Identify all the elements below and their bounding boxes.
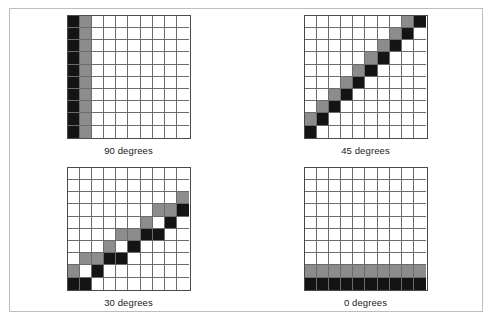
grid-cell bbox=[317, 65, 329, 77]
grid-cell bbox=[104, 241, 116, 253]
grid-cell bbox=[104, 40, 116, 52]
grid-cell bbox=[341, 229, 353, 241]
grid-cell bbox=[68, 217, 80, 229]
grid-cell bbox=[92, 180, 104, 192]
grid-cell bbox=[116, 217, 128, 229]
grid-cell bbox=[177, 278, 189, 290]
grid-cell bbox=[305, 28, 317, 40]
grid-cell bbox=[104, 126, 116, 138]
grid-cell bbox=[116, 265, 128, 277]
grid-cell bbox=[390, 113, 402, 125]
grid-cell bbox=[128, 113, 140, 125]
grid-cell bbox=[341, 204, 353, 216]
grid-cell bbox=[68, 168, 80, 180]
grid-cell bbox=[116, 278, 128, 290]
grid-cell bbox=[141, 265, 153, 277]
grid-cell bbox=[80, 28, 92, 40]
grid-cell bbox=[378, 52, 390, 64]
grid-cell bbox=[378, 77, 390, 89]
grid-cell bbox=[92, 229, 104, 241]
grid-cell bbox=[317, 168, 329, 180]
grid-cell bbox=[128, 52, 140, 64]
grid-cell bbox=[378, 217, 390, 229]
grid-cell bbox=[329, 253, 341, 265]
grid-cell bbox=[92, 241, 104, 253]
grid-cell bbox=[80, 52, 92, 64]
grid-cell bbox=[116, 168, 128, 180]
grid-cell bbox=[104, 204, 116, 216]
grid-cell bbox=[177, 52, 189, 64]
grid-cell bbox=[341, 126, 353, 138]
grid-cell bbox=[177, 126, 189, 138]
grid-cell bbox=[177, 101, 189, 113]
grid-cell bbox=[104, 77, 116, 89]
grid-cell bbox=[165, 192, 177, 204]
figure-frame: 90 degrees45 degrees30 degrees0 degrees bbox=[9, 8, 483, 312]
grid-cell bbox=[177, 229, 189, 241]
grid-cell bbox=[128, 89, 140, 101]
grid-cell bbox=[305, 89, 317, 101]
grid-cell bbox=[165, 16, 177, 28]
grid-cell bbox=[141, 180, 153, 192]
grid-cell bbox=[390, 28, 402, 40]
grid-cell bbox=[341, 253, 353, 265]
grid-cell bbox=[378, 65, 390, 77]
grid-cell bbox=[402, 77, 414, 89]
grid-cell bbox=[305, 241, 317, 253]
grid-cell bbox=[365, 204, 377, 216]
grid-cell bbox=[305, 180, 317, 192]
grid-cell bbox=[329, 241, 341, 253]
grid-cell bbox=[353, 217, 365, 229]
grid-cell bbox=[341, 101, 353, 113]
grid-cell bbox=[353, 192, 365, 204]
grid-cell bbox=[68, 89, 80, 101]
grid-cell bbox=[80, 101, 92, 113]
grid-cell bbox=[177, 253, 189, 265]
grid-cell bbox=[390, 101, 402, 113]
grid-cell bbox=[177, 217, 189, 229]
grid-cell bbox=[329, 229, 341, 241]
grid-cell bbox=[116, 16, 128, 28]
grid-cell bbox=[365, 168, 377, 180]
grid-cell bbox=[116, 192, 128, 204]
grid-cell bbox=[80, 16, 92, 28]
grid-cell bbox=[378, 180, 390, 192]
grid-cell bbox=[317, 113, 329, 125]
grid-cell bbox=[177, 65, 189, 77]
grid-cell bbox=[317, 265, 329, 277]
grid-cell bbox=[353, 278, 365, 290]
grid-cell bbox=[305, 77, 317, 89]
grid-cell bbox=[414, 52, 426, 64]
grid-cell bbox=[329, 180, 341, 192]
grid-cell bbox=[92, 101, 104, 113]
grid-cell bbox=[153, 77, 165, 89]
grid-cell bbox=[165, 89, 177, 101]
orientation-grid bbox=[304, 167, 428, 291]
grid-cell bbox=[341, 40, 353, 52]
grid-cell bbox=[402, 113, 414, 125]
grid-cell bbox=[317, 52, 329, 64]
grid-cell bbox=[365, 77, 377, 89]
grid-cell bbox=[153, 101, 165, 113]
grid-cell bbox=[68, 101, 80, 113]
grid-cell bbox=[141, 168, 153, 180]
grid-cell bbox=[165, 204, 177, 216]
grid-cell bbox=[341, 28, 353, 40]
grid-cell bbox=[317, 253, 329, 265]
grid-cell bbox=[153, 40, 165, 52]
grid-cell bbox=[68, 28, 80, 40]
grid-cell bbox=[353, 229, 365, 241]
grid-cell bbox=[329, 101, 341, 113]
grid-cell bbox=[128, 28, 140, 40]
grid-cell bbox=[390, 65, 402, 77]
grid-cell bbox=[341, 278, 353, 290]
grid-cell bbox=[165, 77, 177, 89]
grid-cells bbox=[305, 168, 427, 290]
grid-cell bbox=[104, 278, 116, 290]
grid-cell bbox=[141, 89, 153, 101]
grid-cell bbox=[177, 89, 189, 101]
panel-label: 0 degrees bbox=[344, 298, 387, 308]
grid-cell bbox=[414, 253, 426, 265]
grid-cell bbox=[177, 168, 189, 180]
grid-cell bbox=[305, 65, 317, 77]
